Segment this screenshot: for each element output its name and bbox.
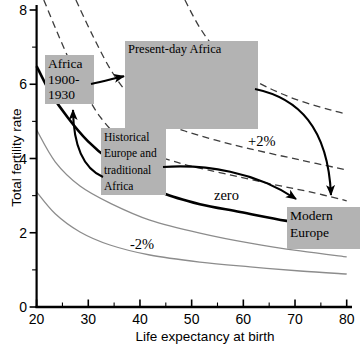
curve-label-zero: zero — [214, 187, 239, 204]
y-tick-label: 8 — [19, 2, 27, 18]
curve-label-plus2pct: +2% — [248, 133, 276, 150]
y-tick-label: 0 — [19, 299, 27, 315]
box-text-line: Historical — [104, 129, 166, 145]
box-text-line: Modern — [290, 208, 360, 225]
x-tick-label: 80 — [339, 311, 355, 327]
x-tick-label: 30 — [80, 311, 96, 327]
x-tick-label: 20 — [29, 311, 45, 327]
box-text-line: 1900- — [48, 72, 94, 88]
x-axis-title: Life expectancy at birth — [115, 329, 295, 344]
box-text-line: Present-day Africa — [128, 42, 258, 57]
annotation-box-present-day-africa: Present-day Africa — [125, 41, 258, 129]
annotation-box-historical-europe: Historical Europe and traditional Africa — [101, 128, 166, 195]
x-tick-label: 70 — [287, 311, 303, 327]
y-axis-title: Total fertility rate — [9, 87, 24, 229]
x-tick-label: 50 — [184, 311, 200, 327]
box-text-line: Europe and — [104, 145, 166, 161]
box-text-line: Africa — [48, 56, 94, 72]
annotation-box-africa-1900-1930: Africa 1900- 1930 — [45, 55, 94, 104]
annotation-box-modern-europe: Modern Europe — [287, 207, 360, 249]
box-text-line: Africa — [104, 178, 166, 194]
box-text-line: traditional — [104, 162, 166, 178]
box-text-line: Europe — [290, 225, 360, 242]
isogrowth-chart: 2030405060708002468 Africa 1900- 1930 Pr… — [0, 0, 360, 348]
box-text-line: 1930 — [48, 87, 94, 103]
x-tick-label: 40 — [132, 311, 148, 327]
curve-label-minus2pct: -2% — [130, 236, 154, 253]
x-tick-label: 60 — [236, 311, 252, 327]
